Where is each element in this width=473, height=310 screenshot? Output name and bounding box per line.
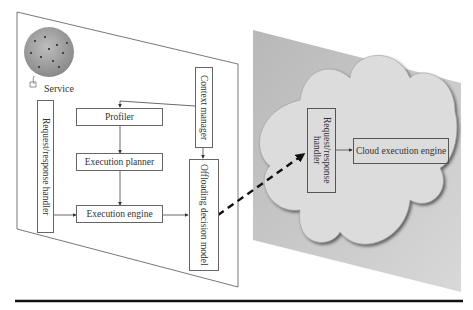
offloading-decision-model-label: Offloading decision model [199, 164, 209, 266]
execution-planner-box: Execution planner [76, 153, 163, 171]
context-manager-box: Context manager [195, 67, 213, 148]
context-manager-label: Context manager [199, 75, 209, 140]
profiler-label: Profiler [105, 112, 134, 122]
cloud-execution-engine-box: Cloud execution engine [353, 138, 449, 164]
execution-engine-box: Execution engine [76, 205, 163, 223]
offloading-decision-model-box: Offloading decision model [189, 159, 219, 271]
cloud-request-response-handler-label: Request/response handler [312, 109, 332, 192]
service-label: Service [44, 83, 74, 94]
request-response-handler-label: Request/response handler [41, 118, 51, 215]
request-response-handler-box: Request/response handler [37, 100, 54, 233]
cloud-request-response-handler-box: Request/response handler [307, 108, 336, 193]
cloud-execution-engine-label: Cloud execution engine [356, 146, 446, 156]
execution-planner-label: Execution planner [85, 157, 154, 167]
execution-engine-label: Execution engine [86, 209, 152, 219]
profiler-box: Profiler [76, 108, 163, 126]
